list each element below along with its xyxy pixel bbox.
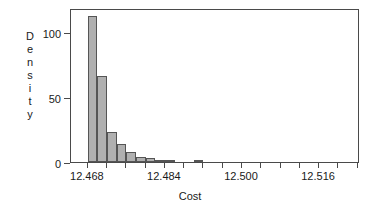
x-tick-mark [87, 163, 88, 168]
x-tick-mark [280, 163, 281, 168]
x-axis-title: Cost [0, 190, 380, 202]
x-tick-mark [145, 163, 146, 168]
x-tick-mark [202, 163, 203, 168]
x-tick-mark [357, 163, 358, 168]
x-tick-label: 12.468 [70, 170, 104, 182]
y-axis-title-letter: y [27, 108, 33, 121]
x-tick-mark [125, 163, 126, 168]
histogram-bar [165, 160, 175, 162]
histogram-bar [136, 157, 146, 162]
y-axis-title-letter: t [28, 95, 31, 108]
x-tick-mark [260, 163, 261, 168]
histogram-bar [97, 76, 107, 162]
y-axis-title-letter: e [27, 43, 33, 56]
y-tick-label: 0 [55, 158, 64, 170]
x-tick-mark [164, 163, 165, 168]
x-tick-mark [106, 163, 107, 168]
histogram-figure: D e n s i t y 0 50 100 12.46812.48412.50… [0, 0, 380, 218]
y-axis-title-letter: n [27, 56, 33, 69]
y-tick-label: 100 [43, 28, 64, 40]
histogram-bar [155, 160, 165, 162]
x-tick-mark [299, 163, 300, 168]
plot-area [70, 9, 359, 163]
x-tick-mark [337, 163, 338, 168]
x-tick-mark [318, 163, 319, 168]
x-tick-mark [241, 163, 242, 168]
histogram-bar [88, 16, 98, 162]
y-axis-title-letter: D [26, 30, 34, 43]
histogram-bars [71, 10, 358, 162]
x-tick-label: 12.484 [147, 170, 181, 182]
histogram-bar [107, 132, 117, 162]
y-axis-title-letter: i [29, 82, 31, 95]
histogram-bar [146, 158, 156, 162]
histogram-bar [117, 144, 127, 162]
x-tick-label: 12.500 [224, 170, 258, 182]
y-axis-title-letter: s [27, 69, 33, 82]
x-tick-mark [222, 163, 223, 168]
histogram-bar [194, 160, 204, 162]
y-axis-title: D e n s i t y [22, 30, 38, 121]
x-tick-label: 12.516 [301, 170, 335, 182]
histogram-bar [126, 152, 136, 162]
y-tick-label: 50 [49, 93, 64, 105]
x-tick-mark [183, 163, 184, 168]
